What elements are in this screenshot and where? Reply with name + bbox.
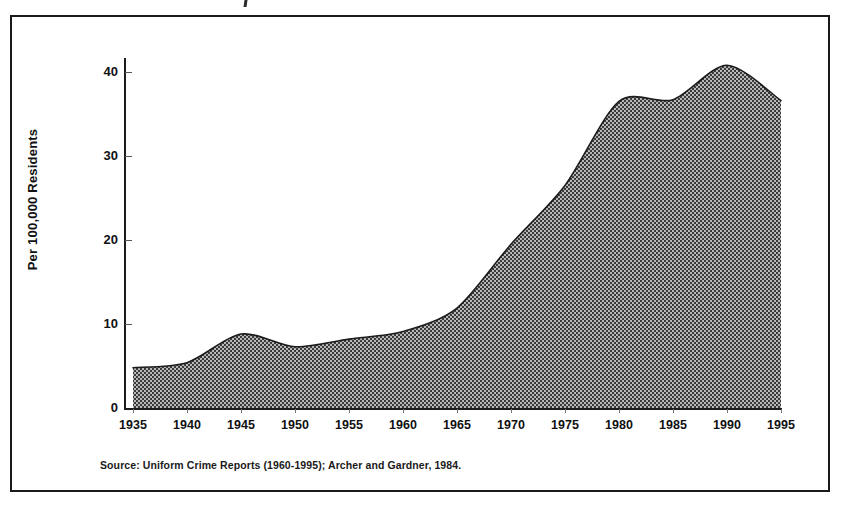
x-axis-tick-mark [403,409,404,413]
x-axis-tick-mark [133,409,134,413]
x-axis-tick-mark [673,409,674,413]
x-axis-tick-label: 1950 [265,418,325,432]
y-axis-tick-label: 10 [78,317,118,330]
x-axis-tick-mark [349,409,350,413]
y-axis-tick-label: 0 [78,401,118,414]
x-axis-tick-label: 1970 [481,418,541,432]
x-axis-line [124,408,782,410]
x-axis-tick-label: 1980 [589,418,649,432]
y-axis-tick-mark [125,324,132,325]
source-note: Source: Uniform Crime Reports (1960-1995… [100,459,461,471]
x-axis-tick-label: 1965 [427,418,487,432]
y-axis-line [124,58,126,409]
y-axis-title: Per 100,000 Residents [25,100,40,300]
x-axis-tick-label: 1990 [697,418,757,432]
x-axis-tick-label: 1940 [157,418,217,432]
chart-plot-area: Per 100,000 Residents 010203040 19351940… [0,0,844,507]
x-axis-tick-mark [511,409,512,413]
x-axis-tick-label: 1935 [103,418,163,432]
x-axis-tick-label: 1995 [751,418,811,432]
y-axis-tick-mark [125,156,132,157]
y-axis-tick-label: 20 [78,233,118,246]
x-axis-tick-label: 1985 [643,418,703,432]
x-axis-tick-label: 1975 [535,418,595,432]
x-axis-tick-mark [295,409,296,413]
y-axis-tick-mark [125,72,132,73]
x-axis-tick-mark [619,409,620,413]
y-axis-tick-mark [125,240,132,241]
x-axis-tick-label: 1955 [319,418,379,432]
y-axis-tick-label: 30 [78,149,118,162]
x-axis-tick-mark [457,409,458,413]
x-axis-tick-label: 1960 [373,418,433,432]
x-axis-tick-mark [187,409,188,413]
x-axis-tick-mark [241,409,242,413]
y-axis-tick-label: 40 [78,65,118,78]
x-axis-tick-label: 1945 [211,418,271,432]
x-axis-tick-mark [727,409,728,413]
x-axis-tick-mark [565,409,566,413]
area-fill-path [133,65,781,408]
x-axis-tick-mark [781,409,782,413]
